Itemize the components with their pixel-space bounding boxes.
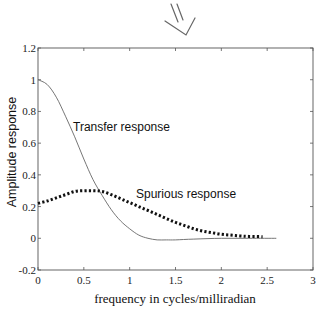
y-tick-label: -0.2 bbox=[19, 264, 36, 276]
plot-area-frame bbox=[38, 48, 313, 270]
spurious-response-label: Spurious response bbox=[136, 187, 236, 201]
x-tick-label: 0.5 bbox=[77, 274, 91, 286]
y-tick-label: 0.8 bbox=[22, 105, 36, 117]
y-tick-label: 0.4 bbox=[22, 169, 36, 181]
y-tick-label: 0 bbox=[31, 232, 37, 244]
x-tick-label: 1.5 bbox=[169, 274, 183, 286]
axis-tick-labels: 00.511.522.53-0.200.20.40.60.811.2 bbox=[19, 42, 317, 286]
x-tick-label: 2.5 bbox=[260, 274, 274, 286]
x-tick-label: 1 bbox=[127, 274, 133, 286]
y-tick-label: 1.2 bbox=[22, 42, 36, 54]
y-tick-label: 0.2 bbox=[22, 201, 36, 213]
x-tick-label: 0 bbox=[35, 274, 41, 286]
y-tick-label: 1 bbox=[31, 74, 37, 86]
data-series bbox=[38, 80, 276, 240]
hand-drawn-arrow-icon bbox=[165, 4, 195, 35]
x-tick-label: 2 bbox=[219, 274, 225, 286]
axis-ticks bbox=[38, 48, 313, 270]
transfer-response-line bbox=[38, 80, 276, 240]
x-axis-label: frequency in cycles/milliradian bbox=[94, 291, 256, 306]
y-axis-label: Amplitude response bbox=[5, 97, 19, 208]
transfer-response-label: Transfer response bbox=[73, 120, 170, 134]
x-tick-label: 3 bbox=[310, 274, 316, 286]
y-tick-label: 0.6 bbox=[22, 137, 36, 149]
chart-figure: 00.511.522.53-0.200.20.40.60.811.2 frequ… bbox=[0, 0, 324, 314]
